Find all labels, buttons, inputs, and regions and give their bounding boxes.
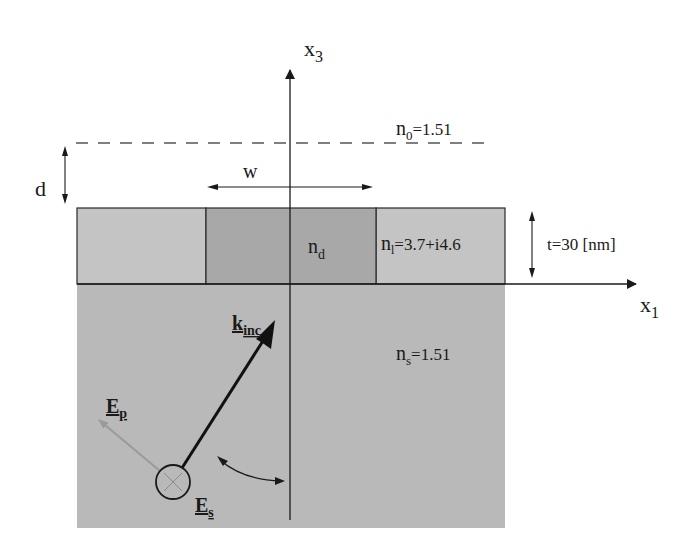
- x3-axis-label: x3: [304, 36, 323, 65]
- w-arrow-head-left: [207, 184, 218, 190]
- d-arrow-head-bottom: [62, 194, 68, 204]
- d-label: d: [35, 176, 46, 201]
- x1-axis-label: x1: [640, 292, 659, 321]
- w-label: w: [243, 160, 258, 182]
- w-arrow-head-right: [362, 184, 373, 190]
- t-arrow-head-bottom: [529, 268, 535, 278]
- diagram: x3 x1 n0=1.51 d w nd nl=3.7+i4.6 t=30 [n…: [0, 0, 698, 552]
- t-arrow-head-top: [529, 211, 535, 221]
- t-label: t=30 [nm]: [547, 235, 616, 254]
- slot-region: [206, 208, 376, 284]
- n0-label: n0=1.51: [396, 117, 452, 143]
- substrate-region: [77, 284, 505, 528]
- layer-left: [77, 208, 206, 284]
- d-arrow-head-top: [62, 146, 68, 156]
